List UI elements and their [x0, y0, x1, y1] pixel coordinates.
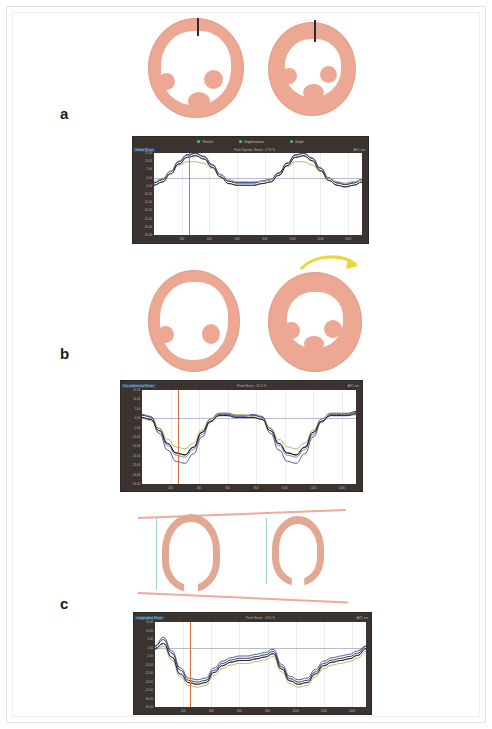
chart-c-plot[interactable] — [155, 622, 366, 707]
chart-b-title-right: AVC ms — [348, 384, 362, 388]
y-axis-tick: -30.00 — [145, 697, 153, 701]
x-axis-tick: 1000 — [290, 237, 296, 241]
chart-panel-a[interactable]: Results Segmentation Graph Global Strain… — [132, 136, 369, 244]
papillary-nub-right — [324, 320, 342, 338]
legend-dot-results — [197, 140, 200, 143]
chart-b-title-mid: Peak Strain: -21.4 % — [156, 384, 348, 388]
myocardium-ring — [148, 270, 240, 372]
chart-c-title-right: AVC ms — [357, 616, 371, 620]
y-axis-tick: -15.00 — [144, 200, 152, 204]
apex-reference-line — [138, 592, 348, 603]
strain-curve-segment-black — [155, 644, 366, 685]
y-axis-tick: -30.00 — [132, 473, 140, 477]
long-axis-systole — [272, 516, 324, 586]
y-axis-tick: 0.00 — [135, 416, 140, 420]
legend-item-results[interactable]: Results — [197, 140, 213, 144]
y-axis-tick: -20.00 — [145, 680, 153, 684]
papillary-nub-right — [320, 66, 337, 83]
time-cursor[interactable] — [190, 622, 191, 707]
strain-curve-segment-black — [142, 414, 356, 455]
y-axis-tick: 0.00 — [148, 646, 153, 650]
strain-curves — [155, 622, 366, 707]
y-axis-tick: 5.00 — [135, 407, 140, 411]
x-axis-tick: 600 — [225, 486, 230, 490]
septal-reference-line — [314, 20, 316, 42]
strain-curves — [154, 153, 362, 235]
x-axis-tick: 400 — [197, 486, 202, 490]
long-axis-diastole — [162, 514, 220, 592]
chart-a-legend: Results Segmentation Graph — [133, 137, 368, 146]
chart-b-titlebar: Circumferential Strain Peak Strain: -21.… — [121, 382, 362, 389]
chart-c-titlebar: Longitudinal Strain Peak Strain: -19.6 %… — [134, 614, 371, 621]
time-cursor[interactable] — [178, 390, 179, 484]
chart-b-xaxis: 200400600800100012001400 — [142, 485, 362, 493]
x-axis-tick: 400 — [207, 237, 212, 241]
y-axis-tick: 15.00 — [146, 620, 153, 624]
y-axis-tick: -5.00 — [147, 654, 153, 658]
x-axis-tick: 1000 — [282, 486, 288, 490]
myocardium-ring — [268, 272, 362, 372]
legend-label-segmentation: Segmentation — [244, 140, 264, 144]
legend-label-results: Results — [202, 140, 213, 144]
legend-dot-segmentation — [239, 140, 242, 143]
chart-a-yaxis: 15.0010.005.000.00-5.00-10.00-15.00-20.0… — [133, 153, 153, 235]
myocardium-ring — [268, 22, 356, 116]
myocardial-wall — [272, 516, 324, 586]
short-axis-basal — [148, 270, 240, 372]
y-axis-tick: -25.00 — [132, 463, 140, 467]
short-axis-systole — [268, 22, 356, 116]
y-axis-tick: -10.00 — [132, 435, 140, 439]
x-axis-tick: 200 — [181, 709, 186, 713]
papillary-nub-right — [204, 70, 223, 89]
chart-panel-b[interactable]: Circumferential Strain Peak Strain: -21.… — [120, 380, 363, 492]
y-axis-tick: -10.00 — [144, 192, 152, 196]
chart-c-title-mid: Peak Strain: -19.6 % — [164, 616, 356, 620]
chart-a-plot[interactable] — [154, 153, 362, 235]
x-axis-tick: 600 — [237, 709, 242, 713]
short-axis-diastole — [148, 18, 244, 118]
chart-a-xaxis: 200400600800100012001400 — [154, 236, 368, 244]
y-axis-tick: -15.00 — [132, 444, 140, 448]
x-axis-tick: 400 — [209, 709, 214, 713]
legend-item-graph[interactable]: Graph — [290, 140, 304, 144]
long-axis-midline-left — [156, 516, 157, 590]
panel-c: c Longitudinal Strain Peak Strain: -19.6… — [0, 500, 492, 729]
lv-cavity — [160, 282, 228, 360]
x-axis-tick: 1200 — [321, 709, 327, 713]
strain-curves — [142, 390, 356, 484]
panel-a-label: a — [60, 105, 68, 122]
y-axis-tick: -30.00 — [144, 225, 152, 229]
x-axis-tick: 1200 — [317, 237, 323, 241]
y-axis-tick: -15.00 — [145, 671, 153, 675]
strain-curve-segment-blue — [155, 637, 366, 680]
inferior-wall-thickening — [303, 84, 324, 101]
x-axis-tick: 1000 — [293, 709, 299, 713]
y-axis-tick: 5.00 — [148, 637, 153, 641]
y-axis-tick: -5.00 — [134, 426, 140, 430]
myocardium-ring — [148, 18, 244, 118]
inferior-wall-thickening — [188, 92, 210, 110]
chart-a-title-mid: Peak Systolic Strain: -17.8 % — [155, 148, 353, 152]
legend-label-graph: Graph — [295, 140, 304, 144]
y-axis-tick: 15.00 — [133, 388, 140, 392]
y-axis-tick: -35.00 — [144, 233, 152, 237]
myocardial-wall — [162, 514, 220, 592]
y-axis-tick: -20.00 — [132, 454, 140, 458]
papillary-nub-right — [202, 324, 220, 344]
septal-reference-line — [197, 18, 199, 36]
rotation-arrow — [300, 254, 364, 278]
chart-panel-c[interactable]: Longitudinal Strain Peak Strain: -19.6 %… — [133, 612, 372, 715]
papillary-nub-left — [157, 326, 174, 343]
strain-curve-segment-gray — [155, 644, 366, 685]
papillary-nub-left — [281, 68, 297, 84]
chart-a-title-right: AVC ms — [354, 148, 368, 152]
figure-page: a — [0, 0, 492, 729]
chart-c-title-left: Longitudinal Strain — [134, 616, 164, 620]
chart-c-yaxis: 15.0010.005.000.00-5.00-10.00-15.00-20.0… — [134, 622, 154, 707]
legend-item-segmentation[interactable]: Segmentation — [239, 140, 264, 144]
y-axis-tick: -25.00 — [144, 217, 152, 221]
short-axis-apical-rotated — [268, 272, 362, 372]
time-cursor[interactable] — [189, 153, 190, 235]
chart-b-plot[interactable] — [142, 390, 356, 484]
panel-b-label: b — [60, 345, 69, 362]
